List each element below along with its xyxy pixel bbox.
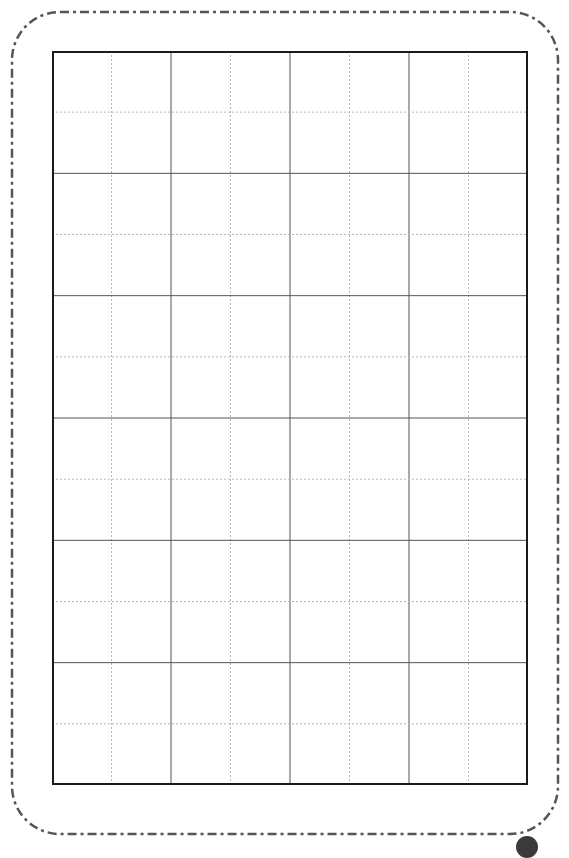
grid-lines xyxy=(52,51,528,785)
practice-grid xyxy=(52,51,528,785)
corner-mark xyxy=(516,836,538,858)
